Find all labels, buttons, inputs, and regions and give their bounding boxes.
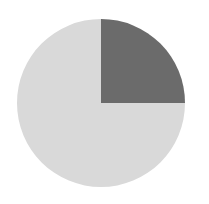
pie-slice-0 [101,19,185,103]
pie-slices [17,19,185,187]
pie-chart [0,0,209,204]
